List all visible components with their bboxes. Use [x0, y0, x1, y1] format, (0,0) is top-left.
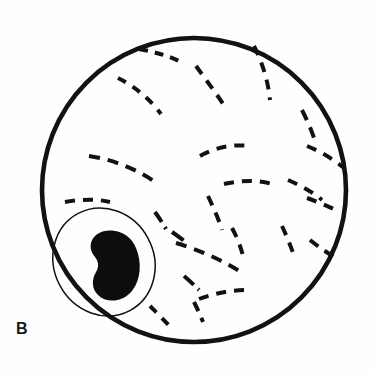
fiber-16	[282, 226, 295, 258]
fiber-5	[302, 110, 314, 138]
fiber-1	[139, 49, 183, 63]
fiber-20	[194, 302, 203, 322]
cell-diagram-svg	[0, 0, 373, 374]
figure-panel-b: B	[0, 0, 373, 374]
fiber-12	[208, 196, 222, 230]
fiber-13	[307, 198, 340, 212]
fiber-19	[199, 290, 246, 299]
fiber-15	[232, 228, 243, 256]
fiber-21	[150, 306, 173, 330]
fiber-2	[118, 78, 161, 114]
fiber-11	[65, 200, 110, 202]
fiber-22	[172, 232, 187, 243]
fiber-3	[196, 66, 227, 110]
fiber-18	[176, 243, 244, 274]
nucleus-body	[91, 231, 140, 301]
cell-outline-circle	[42, 38, 346, 342]
fiber-9	[224, 181, 272, 184]
fiber-23	[184, 276, 199, 290]
fiber-6	[89, 156, 158, 184]
fiber-14	[155, 212, 166, 229]
fiber-10	[288, 180, 322, 200]
panel-label-b: B	[16, 321, 28, 337]
cell-outline-group	[42, 38, 346, 342]
fiber-7	[200, 145, 248, 156]
